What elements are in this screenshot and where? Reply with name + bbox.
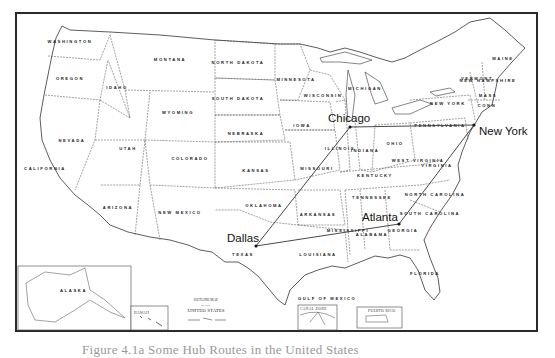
state-label-iowa: IOWA (293, 123, 311, 128)
map-title-line3: UNITED STATES (187, 308, 224, 313)
state-label-kentucky: KENTUCKY (357, 173, 393, 178)
state-boundaries (45, 35, 500, 262)
state-label-maine: MAINE (492, 56, 514, 61)
hawaii-inset: HAWAII (131, 306, 168, 330)
state-label-kansas: KANSAS (242, 168, 269, 173)
state-label-virginia: VIRGINIA (421, 163, 452, 168)
state-label-idaho: IDAHO (106, 85, 128, 90)
state-label-arkansas: ARKANSAS (300, 212, 337, 217)
city-dot-atlanta (397, 222, 400, 225)
puerto-rico-inset: PUERTO RICO (357, 307, 402, 328)
state-label-south-dakota: SOUTH DAKOTA (212, 96, 265, 101)
state-label-north-carolina: NORTH CAROLINA (405, 192, 466, 197)
state-label-wyoming: WYOMING (162, 110, 194, 115)
state-label-florida: FLORIDA (410, 271, 440, 276)
state-label-oregon: OREGON (56, 76, 84, 81)
alaska-inset: ALASKA (18, 266, 131, 330)
city-label-new-york: New York (479, 125, 528, 137)
map-title-line1: OUTLINE MAP (194, 298, 218, 302)
city-dot-dallas (254, 244, 257, 247)
state-label-west-virginia: WEST VIRGINIA (392, 158, 445, 163)
canal-zone-inset: CANAL ZONE (298, 305, 337, 330)
state-label-georgia: GEORGIA (388, 228, 419, 233)
state-label-texas: TEXAS (232, 252, 254, 257)
state-label-south-carolina: SOUTH CAROLINA (400, 211, 460, 216)
map-title-block: OUTLINE MAP OF THE UNITED STATES (187, 298, 226, 320)
state-label-oklahoma: OKLAHOMA (245, 203, 282, 208)
city-label-chicago: Chicago (328, 112, 370, 124)
state-label-mass: MASS (479, 93, 498, 98)
state-label-utah: UTAH (119, 146, 137, 151)
coastline (40, 18, 525, 305)
scale-bar (188, 318, 226, 320)
hawaii-label: HAWAII (134, 311, 150, 315)
state-label-arizona: ARIZONA (103, 205, 133, 210)
state-label-colorado: COLORADO (171, 156, 208, 161)
route-atlanta-new-york (399, 125, 474, 224)
state-label-new-mexico: NEW MEXICO (158, 210, 201, 215)
city-label-atlanta: Atlanta (362, 211, 398, 223)
gulf-label: GULF OF MEXICO (298, 296, 356, 301)
state-labels: WASHINGTONOREGONCALIFORNIANEVADAIDAHOMON… (24, 39, 516, 276)
city-label-dallas: Dallas (227, 232, 259, 244)
state-label-north-dakota: NORTH DAKOTA (212, 60, 265, 65)
state-label-tennessee: TENNESSEE (352, 195, 392, 200)
map-title-line2: OF THE (201, 304, 211, 307)
state-label-new-hampshire: NEW HAMPSHIRE (460, 78, 517, 83)
state-label-nevada: NEVADA (59, 138, 86, 143)
state-label-california: CALIFORNIA (24, 166, 66, 171)
state-label-wisconsin: WISCONSIN (304, 93, 343, 98)
state-label-michigan: MICHIGAN (348, 86, 382, 91)
canal-zone-label: CANAL ZONE (300, 307, 327, 311)
puerto-rico-label: PUERTO RICO (368, 309, 396, 313)
state-label-ohio: OHIO (386, 141, 403, 146)
state-label-conn: CONN (478, 103, 497, 108)
state-label-minnesota: MINNESOTA (276, 77, 315, 82)
state-label-louisiana: LOUISIANA (299, 252, 336, 257)
city-dot-chicago (348, 125, 351, 128)
state-label-new-york: NEW YORK (430, 101, 466, 106)
city-dot-new-york (472, 123, 475, 126)
state-label-indiana: INDIANA (351, 148, 380, 153)
state-label-washington: WASHINGTON (48, 39, 93, 44)
figure-caption: Figure 4.1a Some Hub Routes in the Unite… (82, 342, 359, 358)
state-label-alabama: ALABAMA (356, 232, 388, 237)
state-label-montana: MONTANA (154, 57, 186, 62)
state-label-nebraska: NEBRASKA (228, 131, 265, 136)
alaska-label: ALASKA (60, 288, 87, 293)
